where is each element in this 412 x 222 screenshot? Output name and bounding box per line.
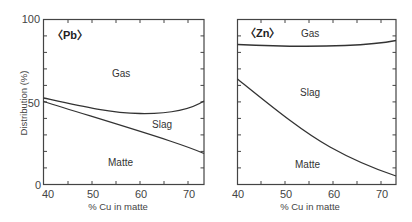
- zn-x-label-40: 40: [232, 188, 244, 200]
- pb-x-label-50: 50: [87, 188, 99, 200]
- pb-x-label-40: 40: [42, 188, 54, 200]
- zn-y-ticks: [238, 36, 397, 168]
- zn-panel-tag: 〈Zn〉: [245, 27, 280, 39]
- y-axis-title: Distribution (%): [18, 71, 29, 136]
- zn-gas-slag-boundary: [238, 41, 397, 47]
- pb-slag-matte-boundary: [44, 102, 205, 154]
- pb-y-label-50: 50: [28, 97, 40, 109]
- pb-gas-slag-boundary: [44, 98, 205, 114]
- zn-panel: 〈Zn〉 Gas Slag Matte 40 50 60 70 % Cu in …: [232, 20, 396, 213]
- pb-gas-label: Gas: [112, 68, 130, 79]
- zn-x-label-70: 70: [376, 188, 388, 200]
- zn-x-label-50: 50: [280, 188, 292, 200]
- pb-matte-label: Matte: [108, 157, 133, 168]
- pb-panel: 〈Pb〉 Gas Slag Matte 100 50 0 40 50 60 70…: [18, 13, 204, 212]
- pb-y-ticks: [44, 36, 205, 168]
- pb-y-label-0: 0: [35, 179, 41, 191]
- zn-slag-label: Slag: [300, 87, 320, 98]
- pb-slag-label: Slag: [152, 119, 172, 130]
- pb-panel-tag: 〈Pb〉: [52, 29, 88, 41]
- zn-x-axis-title: % Cu in matte: [280, 201, 340, 212]
- zn-matte-label: Matte: [295, 159, 320, 170]
- pb-x-label-60: 60: [135, 188, 147, 200]
- pb-x-axis-title: % Cu in matte: [88, 201, 148, 212]
- zn-gas-label: Gas: [301, 28, 319, 39]
- pb-y-label-100: 100: [22, 13, 40, 25]
- zn-x-label-60: 60: [328, 188, 340, 200]
- pb-x-label-70: 70: [183, 188, 195, 200]
- chart-figure: 〈Pb〉 Gas Slag Matte 100 50 0 40 50 60 70…: [0, 0, 412, 222]
